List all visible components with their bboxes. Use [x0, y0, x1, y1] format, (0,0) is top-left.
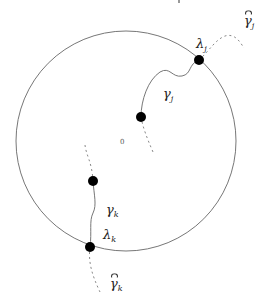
gamma-k-sub: k — [114, 210, 119, 219]
gamma-hat-k-sub: k — [118, 284, 123, 293]
node-gamma-j-end — [136, 112, 146, 122]
curve-gamma-k-tail — [85, 145, 93, 181]
label-gamma-k: γk — [106, 203, 119, 219]
node-lambda-k — [85, 242, 95, 252]
lambda-j-sub: j — [204, 44, 206, 53]
label-gamma-hat-j: γj — [244, 14, 254, 30]
disk-boundary — [16, 31, 236, 251]
lambda-j-base: λ — [196, 36, 204, 51]
lambda-k-sub: k — [111, 235, 116, 244]
curve-gamma-hat-k — [89, 247, 100, 292]
origin-text: 0 — [120, 138, 124, 146]
gamma-k-base: γ — [106, 202, 114, 217]
gamma-j-base: γ — [163, 86, 171, 101]
disk-diagram — [0, 0, 267, 306]
curve-gamma-k — [90, 181, 95, 247]
label-lambda-j: λj — [196, 37, 207, 53]
gamma-hat-j-sub: j — [252, 21, 254, 30]
label-gamma-hat-k: γk — [110, 277, 123, 293]
label-lambda-k: λk — [103, 228, 116, 244]
node-gamma-k-end — [88, 176, 98, 186]
node-lambda-j — [194, 55, 204, 65]
gamma-hat-k-base: γ — [110, 277, 118, 290]
gamma-hat-j-base: γ — [244, 14, 252, 27]
lambda-k-base: λ — [103, 227, 111, 242]
origin-label: 0 — [120, 138, 124, 146]
curve-gamma-j-tail — [141, 117, 153, 152]
gamma-j-sub: j — [171, 94, 173, 103]
label-gamma-j: γj — [163, 87, 173, 103]
